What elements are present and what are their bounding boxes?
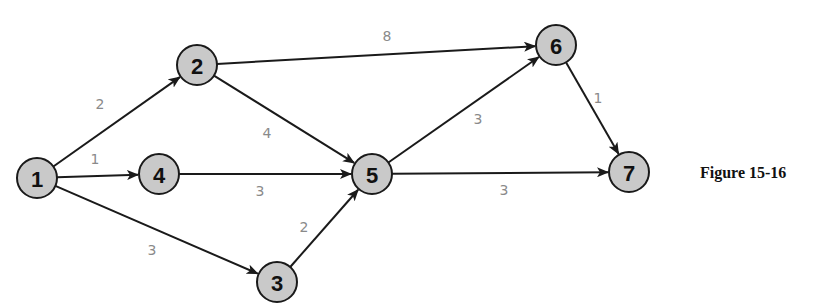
edge-weight-6-7: 1 (594, 90, 603, 106)
node-6: 6 (536, 25, 576, 65)
edge-weight-1-2: 2 (96, 96, 105, 112)
node-7: 7 (609, 152, 649, 192)
node-5: 5 (352, 154, 392, 194)
node-label: 2 (191, 54, 203, 79)
edge-2-6 (217, 46, 535, 64)
node-3: 3 (257, 262, 297, 302)
edge-weight-4-5: 3 (256, 183, 265, 199)
edge-weight-1-3: 3 (148, 242, 157, 258)
node-1: 1 (17, 158, 57, 198)
edge-1-4 (57, 175, 138, 178)
edge-weight-1-4: 1 (91, 151, 100, 167)
node-label: 6 (550, 34, 562, 59)
figure-caption: Figure 15-16 (700, 164, 786, 182)
edge-2-5 (214, 76, 354, 163)
node-label: 1 (31, 167, 43, 192)
edge-weight-2-6: 8 (383, 28, 392, 44)
node-label: 3 (271, 271, 283, 296)
edge-6-7 (566, 62, 619, 153)
edge-1-2 (53, 77, 180, 166)
network-graph: 2138432331 1234567 (0, 0, 819, 308)
node-label: 7 (623, 161, 635, 186)
node-label: 5 (366, 163, 378, 188)
edge-weight-5-6: 3 (474, 111, 483, 127)
edges-layer: 2138432331 (53, 28, 618, 274)
node-label: 4 (153, 163, 166, 188)
node-4: 4 (139, 154, 179, 194)
node-2: 2 (177, 45, 217, 85)
edge-5-7 (392, 172, 608, 174)
edge-weight-3-5: 2 (300, 219, 309, 235)
edge-5-6 (388, 57, 538, 162)
nodes-layer: 1234567 (17, 25, 649, 302)
edge-weight-2-5: 4 (263, 125, 272, 141)
edge-1-3 (55, 186, 257, 274)
edge-weight-5-7: 3 (500, 182, 509, 198)
